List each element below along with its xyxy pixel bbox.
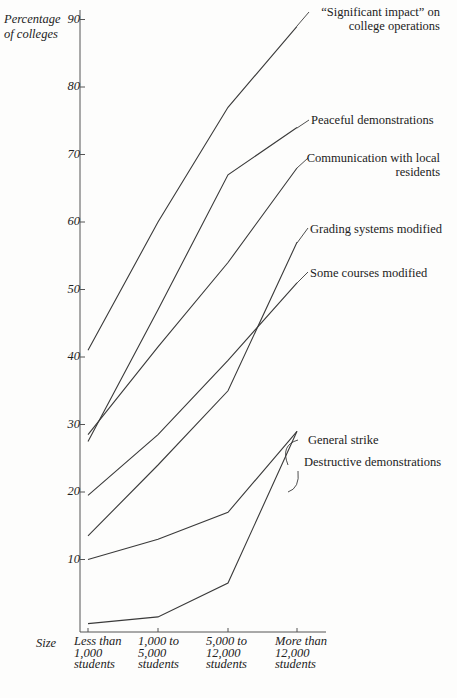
series-label-communication: Communication with local residents xyxy=(290,151,440,179)
series-label-significant-impact: “Significant impact” on college operatio… xyxy=(290,5,440,33)
x-category-3: 5,000 to 12,000 students xyxy=(206,636,276,671)
y-tick-label: 60 xyxy=(58,214,80,229)
series-label-peaceful-demonstrations: Peaceful demonstrations xyxy=(311,113,434,127)
y-axis-label: Percentage of colleges xyxy=(4,12,60,42)
series-line-0 xyxy=(88,26,297,350)
series-line-3 xyxy=(88,242,297,536)
series-line-2 xyxy=(88,168,297,435)
series-line-1 xyxy=(88,128,297,442)
label-leader-lines xyxy=(286,12,309,492)
series-line-4 xyxy=(88,283,297,496)
series-line-6 xyxy=(88,431,297,623)
y-tick-label: 30 xyxy=(58,417,80,432)
x-category-4: More than 12,000 students xyxy=(275,636,345,671)
series-label-destructive-demonstrations: Destructive demonstrations xyxy=(304,455,441,469)
y-tick-label: 10 xyxy=(58,552,80,567)
y-tick-label: 70 xyxy=(58,147,80,162)
x-axis-label: Size xyxy=(36,636,56,651)
x-ticks xyxy=(88,628,297,632)
y-ticks xyxy=(80,20,85,560)
y-tick-label: 80 xyxy=(58,79,80,94)
y-tick-label: 90 xyxy=(58,12,80,27)
y-tick-label: 20 xyxy=(58,484,80,499)
series-lines xyxy=(88,26,297,623)
series-label-some-courses: Some courses modified xyxy=(310,266,427,280)
series-label-grading-systems: Grading systems modified xyxy=(310,222,442,236)
x-category-2: 1,000 to 5,000 students xyxy=(138,636,208,671)
y-tick-label: 40 xyxy=(58,349,80,364)
y-tick-label: 50 xyxy=(58,282,80,297)
series-line-5 xyxy=(88,431,297,559)
series-label-general-strike: General strike xyxy=(308,433,378,447)
x-category-1: Less than 1,000 students xyxy=(74,636,144,671)
